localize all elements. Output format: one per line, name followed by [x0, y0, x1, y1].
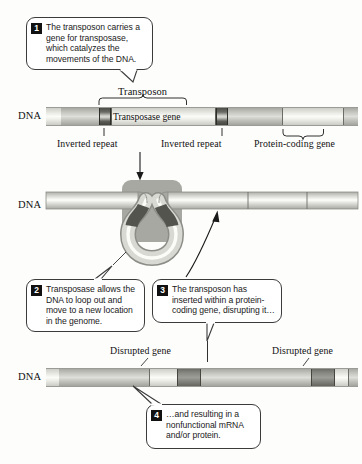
disrupted-gene-part-right	[201, 369, 273, 386]
inverted-repeat-right	[216, 108, 228, 125]
dna-bottom-midspan	[273, 369, 311, 386]
disrupted-gene-label-right: Disrupted gene	[272, 345, 333, 356]
callout-1-tail	[120, 70, 137, 82]
dna-bottom-right-flank	[349, 369, 358, 386]
callout-2-number: 2	[31, 285, 42, 296]
callout-1-text: The transposon carries a gene for transp…	[46, 22, 147, 64]
callout-4: 4 …and resulting in a nonfunctional mRNA…	[146, 404, 261, 449]
disrupted-gene-label-left: Disrupted gene	[110, 345, 171, 356]
dna-segment-spacer	[228, 108, 282, 125]
disrupted-gene-part-left	[149, 369, 177, 386]
insertion-arrow-shaft	[186, 216, 216, 277]
callout-2-leader	[113, 252, 126, 265]
dna-bottom-left-flank	[46, 369, 59, 386]
dna-segment-left-flank	[46, 108, 61, 125]
dna-strand-top	[46, 107, 358, 126]
dna-label-top: DNA	[18, 110, 41, 121]
dna-label-bottom: DNA	[18, 371, 41, 382]
dna-segment-right-flank	[344, 108, 358, 125]
callout-3: 3 The transposon has inserted within a p…	[152, 279, 282, 323]
dna-strand-bottom	[46, 368, 358, 387]
inverted-repeat-left	[99, 108, 111, 125]
callout-2: 2 Transposase allows the DNA to loop out…	[26, 279, 145, 332]
dna-middle-right-arm	[168, 192, 358, 209]
callout-1: 1 The transposon carries a gene for tran…	[26, 17, 153, 70]
callout-4-tail	[133, 386, 161, 404]
dna-bottom-downstream	[335, 369, 349, 386]
callout-2-text: Transposase allows the DNA to loop out a…	[46, 284, 139, 326]
callout-4-number: 4	[151, 410, 162, 421]
inverted-repeat-label-left: Inverted repeat	[57, 138, 118, 149]
dna-divider-b	[343, 108, 344, 125]
protein-coding-gene-seg	[282, 108, 344, 125]
transposase-enzyme	[122, 180, 182, 242]
callout-1-number: 1	[31, 23, 42, 34]
disrupted-gene-leader-left	[141, 358, 148, 366]
dna-bottom-divider-b	[348, 369, 349, 386]
callout-3-number: 3	[157, 285, 168, 296]
inserted-transposon-left	[177, 369, 201, 386]
dna-label-middle: DNA	[18, 199, 41, 210]
inserted-transposon-right	[311, 369, 335, 386]
dna-bottom-upstream	[59, 369, 149, 386]
dna-segment-upstream	[61, 108, 99, 125]
inverted-repeat-label-right: Inverted repeat	[161, 138, 222, 149]
callout-2-tail	[95, 266, 112, 279]
dna-divider-a	[282, 108, 283, 125]
dna-bottom-divider-a	[149, 369, 150, 386]
transposase-gene-label: Transposase gene	[113, 111, 181, 122]
insertion-arrow-head	[212, 211, 219, 223]
callout-4-text: …and resulting in a nonfunctional mRNA a…	[166, 409, 255, 441]
protein-coding-gene-label: Protein-coding gene	[254, 138, 335, 149]
transposon-bracket-label: Transposon	[118, 86, 167, 97]
callout-3-text: The transposon has inserted within a pro…	[172, 284, 276, 316]
disrupted-gene-leader-right	[303, 358, 309, 366]
callout-3-tail	[207, 323, 214, 341]
transposon-diagram: 1 The transposon carries a gene for tran…	[0, 0, 362, 464]
